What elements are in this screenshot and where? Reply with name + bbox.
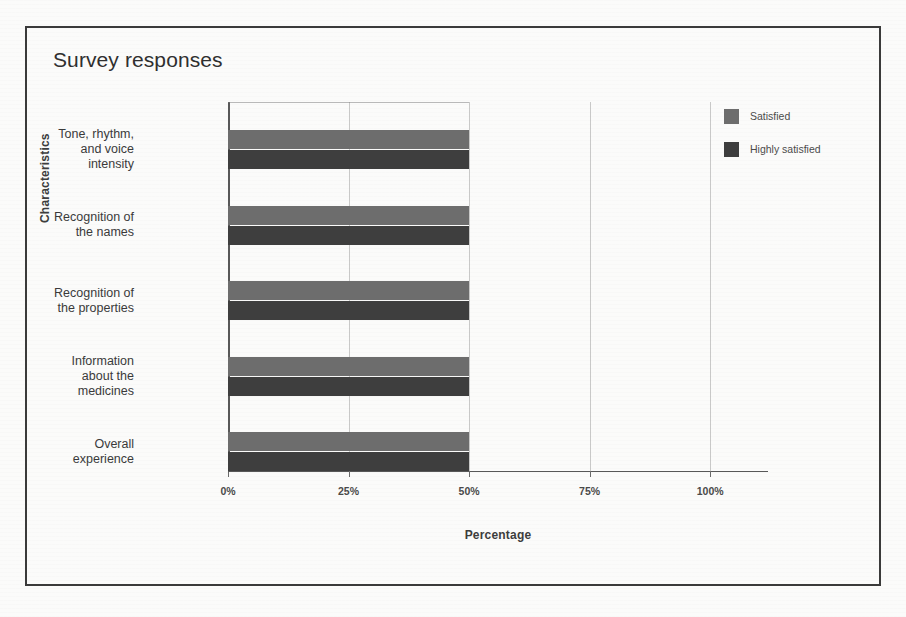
legend-swatch-icon xyxy=(724,142,739,157)
x-axis-tick-mark xyxy=(469,472,470,477)
bar-satisfied xyxy=(228,130,469,149)
legend-item-label: Satisfied xyxy=(750,110,790,122)
legend-item[interactable]: Satisfied xyxy=(724,108,821,124)
x-axis-tick-label: 25% xyxy=(338,485,359,497)
gridline xyxy=(590,102,591,472)
bar-satisfied xyxy=(228,432,469,451)
legend-item[interactable]: Highly satisfied xyxy=(724,141,821,157)
chart-figure: Survey responses Characteristics Percent… xyxy=(25,26,881,586)
y-axis-category-label: Recognition of the names xyxy=(0,210,134,240)
bar-highly-satisfied xyxy=(228,452,469,471)
x-axis-tick-mark xyxy=(228,472,229,477)
chart-title: Survey responses xyxy=(53,48,223,72)
gridline xyxy=(469,102,470,472)
x-axis-tick-label: 50% xyxy=(459,485,480,497)
x-axis-tick-label: 75% xyxy=(579,485,600,497)
plot-area: 0%25%50%75%100% xyxy=(228,102,768,472)
y-axis-category-label: Overall experience xyxy=(0,437,134,467)
legend-swatch-icon xyxy=(724,109,739,124)
plot-top-rule xyxy=(228,102,469,103)
x-axis-tick-label: 100% xyxy=(697,485,724,497)
x-axis-tick-mark xyxy=(590,472,591,477)
y-axis-category-label: Recognition of the properties xyxy=(0,286,134,316)
bar-highly-satisfied xyxy=(228,377,469,396)
legend-item-label: Highly satisfied xyxy=(750,143,821,155)
bar-highly-satisfied xyxy=(228,226,469,245)
bar-highly-satisfied xyxy=(228,150,469,169)
x-axis-tick-label: 0% xyxy=(220,485,235,497)
x-axis-tick-mark xyxy=(710,472,711,477)
x-axis-title: Percentage xyxy=(228,528,768,542)
bar-satisfied xyxy=(228,357,469,376)
bar-highly-satisfied xyxy=(228,301,469,320)
x-axis-tick-mark xyxy=(349,472,350,477)
bar-satisfied xyxy=(228,281,469,300)
y-axis-category-label: Tone, rhythm, and voice intensity xyxy=(0,127,134,172)
gridline xyxy=(710,102,711,472)
chart-legend: SatisfiedHighly satisfied xyxy=(724,108,821,174)
y-axis-category-label: Information about the medicines xyxy=(0,354,134,399)
bar-satisfied xyxy=(228,206,469,225)
